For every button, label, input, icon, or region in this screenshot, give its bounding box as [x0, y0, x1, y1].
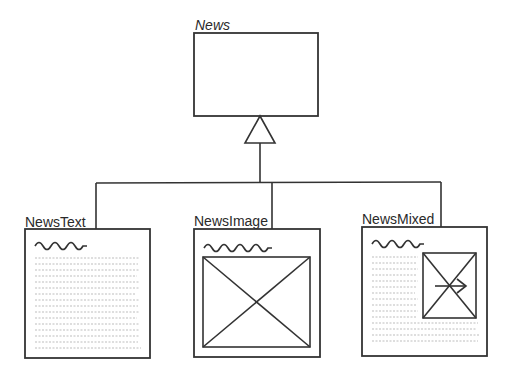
class-newstext: NewsText: [25, 214, 150, 358]
class-news: News: [194, 17, 318, 116]
class-news-box: [194, 33, 318, 116]
class-newsimage: NewsImage: [194, 213, 320, 357]
generalization-triangle-icon: [245, 116, 275, 143]
class-newsmixed: NewsMixed: [362, 211, 487, 356]
class-newsimage-label: NewsImage: [194, 213, 268, 229]
class-newsmixed-label: NewsMixed: [362, 211, 434, 227]
class-news-label: News: [195, 17, 230, 33]
class-diagram: News NewsText: [0, 0, 516, 378]
class-newstext-label: NewsText: [25, 214, 86, 230]
horizontal-bar: [96, 182, 441, 183]
